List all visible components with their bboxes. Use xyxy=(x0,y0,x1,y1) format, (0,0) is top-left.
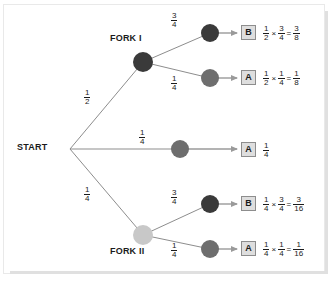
result-expression-1: 1 2 × 3 4 = 3 8 xyxy=(263,25,300,42)
start-label: START xyxy=(17,142,47,152)
multiply-operator: × xyxy=(269,75,278,83)
branch-prob-start-to-fork1: 1 2 xyxy=(84,88,90,106)
branch-prob-fork1-upper: 3 4 xyxy=(171,11,177,29)
figure-frame: START FORK I FORK II 1 2 1 4 1 4 3 4 1 4 xyxy=(0,0,333,284)
fraction-denominator: 4 xyxy=(263,151,269,159)
fraction-denominator: 2 xyxy=(84,98,90,106)
equals-operator: = xyxy=(285,75,294,83)
branch-prob-fork2-upper: 3 4 xyxy=(171,188,177,206)
fraction-denominator: 8 xyxy=(293,79,299,87)
equals-operator: = xyxy=(285,201,294,209)
multiply-operator: × xyxy=(269,246,278,254)
multiply-operator: × xyxy=(269,201,278,209)
result-expression-3: 1 4 xyxy=(263,142,269,159)
branch-prob-fork1-lower: 1 4 xyxy=(171,74,177,92)
fork-2-label: FORK II xyxy=(110,246,144,256)
equals-operator: = xyxy=(285,30,294,38)
fraction-denominator: 4 xyxy=(84,195,90,203)
outcome-box-a-2: A xyxy=(241,142,256,157)
fraction-denominator: 16 xyxy=(293,250,304,258)
equals-operator: = xyxy=(285,246,294,254)
fraction-denominator: 8 xyxy=(293,34,299,42)
fraction-denominator: 4 xyxy=(171,251,177,259)
branch-prob-start-to-fork2: 1 4 xyxy=(84,185,90,203)
result-expression-5: 1 4 × 1 4 = 1 16 xyxy=(263,241,304,258)
outcome-node-4 xyxy=(201,195,219,213)
multiply-operator: × xyxy=(269,30,278,38)
result-expression-4: 1 4 × 3 4 = 3 16 xyxy=(263,196,304,213)
outcome-box-a-3: A xyxy=(241,241,256,256)
fraction-denominator: 4 xyxy=(171,198,177,206)
outcome-node-3 xyxy=(171,140,189,158)
outcome-box-b-2: B xyxy=(241,196,256,211)
fraction-denominator: 4 xyxy=(171,21,177,29)
result-expression-2: 1 2 × 1 4 = 1 8 xyxy=(263,70,300,87)
fork-2-node xyxy=(133,225,153,245)
outcome-node-5 xyxy=(201,240,219,258)
outcome-node-2 xyxy=(201,69,219,87)
fraction-denominator: 4 xyxy=(139,138,145,146)
edge-start-to-fork2 xyxy=(70,149,143,235)
branch-prob-start-to-middle: 1 4 xyxy=(139,128,145,146)
branch-prob-fork2-lower: 1 4 xyxy=(171,241,177,259)
edge-start-to-fork1 xyxy=(70,62,143,149)
outcome-box-a-1: A xyxy=(241,70,256,85)
outcome-box-b-1: B xyxy=(241,25,256,40)
fraction-denominator: 4 xyxy=(171,84,177,92)
fraction-denominator: 16 xyxy=(293,205,304,213)
edge-fork1-upper xyxy=(143,33,210,62)
edge-fork2-upper xyxy=(143,204,210,235)
fork-1-node xyxy=(133,52,153,72)
outcome-node-1 xyxy=(201,24,219,42)
fork-1-label: FORK I xyxy=(110,33,142,43)
